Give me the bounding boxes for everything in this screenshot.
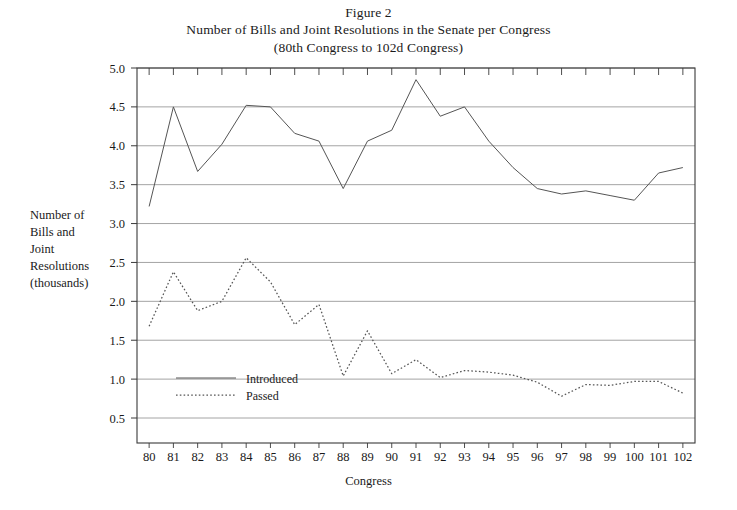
- x-tick-label: 100: [625, 450, 644, 464]
- x-tick-label: 88: [337, 450, 350, 464]
- x-tick-label: 92: [434, 450, 447, 464]
- x-tick-label: 81: [167, 450, 180, 464]
- x-tick-label: 98: [580, 450, 593, 464]
- legend: IntroducedPassed: [176, 372, 298, 403]
- y-tick-label: 3.5: [109, 178, 125, 192]
- axis-tick-marks: [131, 68, 683, 448]
- x-tick-label: 99: [604, 450, 617, 464]
- y-tick-label: 3.0: [109, 217, 125, 231]
- x-tick-label: 91: [410, 450, 423, 464]
- y-tick-label: 4.5: [109, 100, 125, 114]
- x-axis-tick-labels: 8081828384858687888990919293949596979899…: [143, 450, 692, 464]
- x-tick-label: 89: [361, 450, 374, 464]
- x-tick-label: 83: [216, 450, 229, 464]
- x-axis-label: Congress: [0, 474, 737, 489]
- x-tick-label: 85: [264, 450, 277, 464]
- x-tick-label: 80: [143, 450, 156, 464]
- y-tick-label: 1.5: [109, 334, 125, 348]
- x-tick-label: 97: [555, 450, 568, 464]
- y-tick-label: 2.0: [109, 295, 125, 309]
- y-axis-tick-labels: 0.51.01.52.02.53.03.54.04.55.0: [109, 62, 125, 426]
- y-tick-label: 2.5: [109, 256, 125, 270]
- y-tick-label: 5.0: [109, 62, 125, 76]
- y-tick-label: 1.0: [109, 373, 125, 387]
- x-tick-label: 94: [483, 450, 496, 464]
- gridlines: [137, 68, 695, 418]
- legend-label-passed: Passed: [246, 389, 279, 403]
- x-tick-label: 82: [191, 450, 204, 464]
- x-tick-label: 90: [385, 450, 398, 464]
- series-line-introduced: [149, 80, 683, 207]
- x-tick-label: 101: [649, 450, 668, 464]
- x-tick-label: 87: [313, 450, 326, 464]
- x-tick-label: 84: [240, 450, 253, 464]
- data-series: [149, 80, 683, 397]
- series-line-passed: [149, 258, 683, 396]
- y-tick-label: 4.0: [109, 139, 125, 153]
- x-tick-label: 86: [288, 450, 301, 464]
- legend-label-introduced: Introduced: [246, 372, 298, 386]
- plot-area: 0.51.01.52.02.53.03.54.04.55.0 808182838…: [0, 0, 737, 510]
- x-tick-label: 96: [531, 450, 544, 464]
- x-tick-label: 93: [458, 450, 471, 464]
- x-tick-label: 102: [673, 450, 692, 464]
- x-tick-label: 95: [507, 450, 520, 464]
- figure-2-chart: Figure 2 Number of Bills and Joint Resol…: [0, 0, 737, 510]
- y-tick-label: 0.5: [109, 412, 125, 426]
- plot-frame: [137, 68, 695, 443]
